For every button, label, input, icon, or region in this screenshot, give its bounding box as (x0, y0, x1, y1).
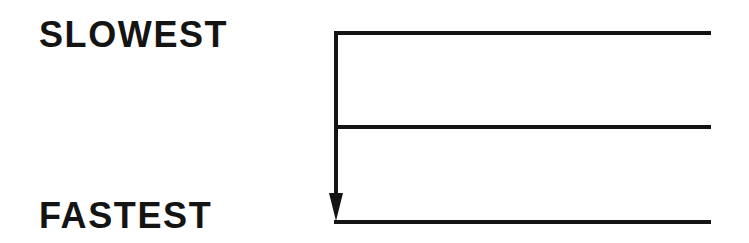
arrow-down-icon (329, 193, 343, 221)
speed-hierarchy-diagram (0, 0, 749, 243)
